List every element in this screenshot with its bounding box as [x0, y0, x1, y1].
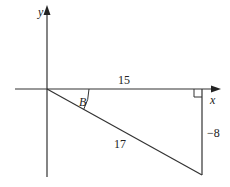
x-axis-arrow-icon — [211, 86, 221, 93]
triangle-diagram: y x 15 B 17 −8 — [0, 0, 230, 187]
hypotenuse-label: 17 — [114, 137, 126, 151]
y-axis-label: y — [37, 5, 44, 19]
hypotenuse — [47, 89, 202, 175]
right-angle-marker — [194, 89, 202, 97]
angle-label: B — [79, 95, 87, 109]
x-axis-label: x — [209, 93, 216, 107]
vertical-side-label: −8 — [207, 126, 220, 140]
y-axis-arrow-icon — [44, 5, 51, 15]
horizontal-side-label: 15 — [118, 73, 130, 87]
